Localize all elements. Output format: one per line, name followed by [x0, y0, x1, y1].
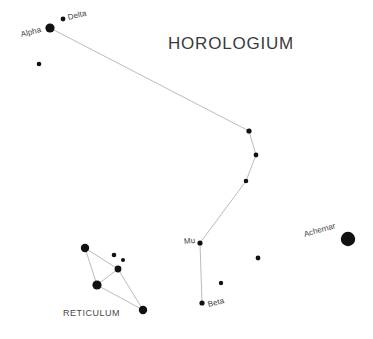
star-point — [61, 17, 66, 22]
star-point — [37, 62, 42, 67]
star-label-mu: Mu — [184, 236, 196, 246]
star-point — [139, 306, 147, 314]
star-point — [219, 281, 223, 285]
constellation-line — [249, 131, 256, 155]
constellation-line — [200, 181, 246, 243]
star-point — [197, 240, 202, 245]
star-point — [254, 153, 259, 158]
star-point — [256, 256, 261, 261]
star-chart: HOROLOGIUM RETICULUM Alpha Delta Mu Beta… — [0, 0, 373, 339]
star-point — [121, 258, 125, 262]
star-point — [81, 244, 89, 252]
star-point — [92, 280, 101, 289]
constellation-line — [246, 155, 256, 181]
constellation-line — [85, 248, 97, 285]
constellation-line — [118, 269, 143, 310]
star-point — [199, 300, 204, 305]
constellation-lines — [50, 28, 256, 310]
star-points — [37, 17, 355, 315]
star-point — [45, 23, 54, 32]
constellation-line — [97, 285, 143, 310]
star-point — [112, 253, 117, 258]
star-point — [244, 179, 249, 184]
star-point — [246, 128, 251, 133]
star-point — [115, 266, 122, 273]
constellation-line — [85, 248, 118, 269]
star-point — [341, 232, 355, 246]
constellation-line — [200, 243, 202, 303]
constellation-title-horologium: HOROLOGIUM — [168, 34, 294, 54]
constellation-title-reticulum: RETICULUM — [63, 308, 120, 318]
